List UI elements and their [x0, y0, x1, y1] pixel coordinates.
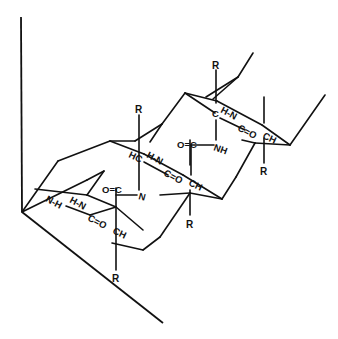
axes — [21, 17, 163, 323]
label-oc-lower: O=C — [102, 184, 122, 195]
vertical-axis-line — [21, 17, 22, 212]
label-co-top: C=O — [236, 122, 259, 141]
backbone-unit-top — [162, 53, 325, 177]
label-ch-bottom: CH — [111, 225, 128, 241]
label-co-mid: C=O — [162, 167, 185, 186]
label-c-top: C — [212, 108, 219, 119]
label-r-mid: R — [186, 219, 194, 230]
label-r-top-left: R — [135, 104, 143, 115]
label-r-top-right: R — [212, 60, 220, 71]
chemical-structure-diagram: R R R R R C H-N C=O CH O=C NH HC H-N C=O… — [0, 0, 338, 339]
label-co-bottom: C=O — [86, 212, 109, 231]
label-n-lower: N — [137, 190, 147, 202]
label-nh-upper: NH — [212, 142, 229, 157]
label-r-right: R — [260, 166, 268, 177]
label-nh-left: N-H — [44, 193, 64, 211]
label-r-bottom: R — [112, 273, 120, 284]
label-hc-mid: HC — [127, 149, 144, 165]
label-oc-upper: O=C — [177, 139, 197, 150]
label-hn-bottom: H-N — [68, 194, 88, 212]
